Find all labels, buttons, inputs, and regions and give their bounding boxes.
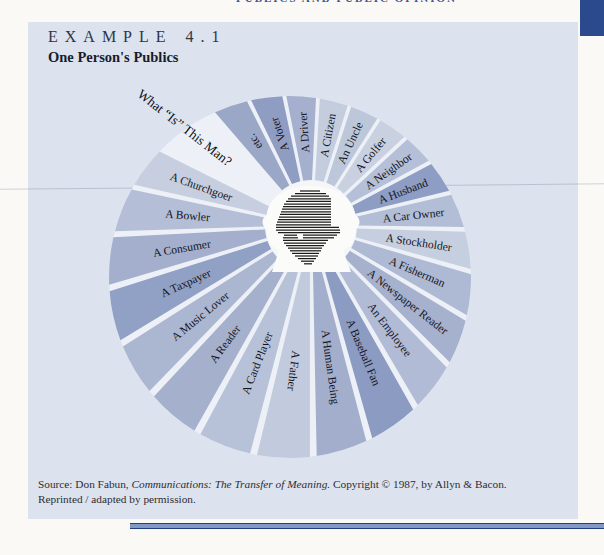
page: { "running_head": "PUBLICS AND PUBLIC OP… [0,0,604,555]
publics-wheel-figure: etc.A VoterA DriverA CitizenAn UncleA Go… [0,0,604,555]
source-citation: Source: Don Fabun, Communications: The T… [38,477,563,507]
bottom-double-rule [130,523,604,529]
source-suffix: Copyright © 1987, by Allyn & Bacon. [330,478,506,490]
source-line2: Reprinted / adapted by permission. [38,493,196,505]
head-profile-icon [263,186,360,272]
source-book-title: Communications: The Transfer of Meaning. [132,478,331,490]
source-prefix: Source: Don Fabun, [38,478,132,490]
